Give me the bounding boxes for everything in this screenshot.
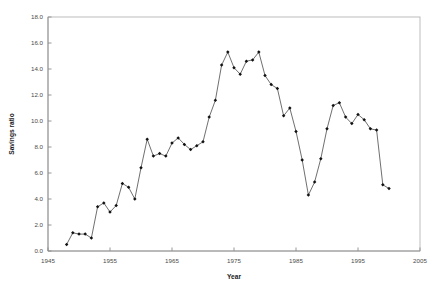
data-point-marker — [214, 98, 218, 102]
data-point-marker — [375, 128, 379, 132]
data-point-marker — [245, 59, 249, 63]
y-tick-label: 0.0 — [34, 247, 43, 254]
data-point-marker — [164, 154, 168, 158]
data-point-marker — [220, 63, 224, 67]
y-axis-ticks — [48, 17, 52, 251]
plot-border — [48, 17, 420, 251]
y-tick-label: 2.0 — [34, 221, 43, 228]
y-tick-label: 10.0 — [31, 117, 44, 124]
x-tick-label: 1975 — [227, 257, 241, 264]
x-tick-label: 1995 — [351, 257, 365, 264]
data-point-markers — [65, 50, 391, 246]
data-point-marker — [338, 101, 342, 105]
x-axis-title: Year — [227, 273, 241, 280]
data-point-marker — [145, 137, 149, 141]
x-tick-label: 2005 — [413, 257, 427, 264]
data-point-marker — [307, 193, 311, 197]
chart-canvas: 1945195519651975198519952005 0.02.04.06.… — [0, 0, 441, 289]
data-point-marker — [133, 197, 137, 201]
x-tick-label: 1945 — [41, 257, 55, 264]
data-point-marker — [71, 231, 75, 235]
data-point-marker — [207, 115, 211, 119]
x-tick-label: 1985 — [289, 257, 303, 264]
y-tick-label: 8.0 — [34, 143, 43, 150]
data-point-marker — [139, 166, 143, 170]
x-tick-label: 1965 — [165, 257, 179, 264]
data-point-marker — [294, 130, 298, 134]
y-tick-label: 6.0 — [34, 169, 43, 176]
x-axis-ticks — [48, 248, 420, 252]
data-point-marker — [331, 104, 335, 108]
data-series-line — [67, 52, 389, 244]
data-point-marker — [152, 154, 156, 158]
y-tick-label: 14.0 — [31, 65, 44, 72]
y-tick-label: 16.0 — [31, 39, 44, 46]
data-point-marker — [313, 180, 317, 184]
data-point-marker — [319, 157, 323, 161]
y-tick-label: 12.0 — [31, 91, 44, 98]
data-point-marker — [77, 232, 81, 236]
series-polyline — [67, 52, 389, 244]
plot-frame — [48, 17, 420, 251]
y-tick-label: 4.0 — [34, 195, 43, 202]
data-point-marker — [325, 127, 329, 131]
savings-ratio-chart: 1945195519651975198519952005 0.02.04.06.… — [0, 0, 441, 289]
data-point-marker — [226, 50, 230, 54]
data-point-marker — [300, 158, 304, 162]
x-tick-label: 1955 — [103, 257, 117, 264]
y-axis-title: Savings ratio — [8, 113, 16, 154]
data-point-marker — [65, 243, 69, 247]
data-point-marker — [158, 152, 162, 156]
y-tick-label: 18.0 — [31, 13, 44, 20]
y-axis-tick-labels: 0.02.04.06.08.010.012.014.016.018.0 — [31, 13, 44, 254]
x-axis-tick-labels: 1945195519651975198519952005 — [41, 257, 427, 264]
